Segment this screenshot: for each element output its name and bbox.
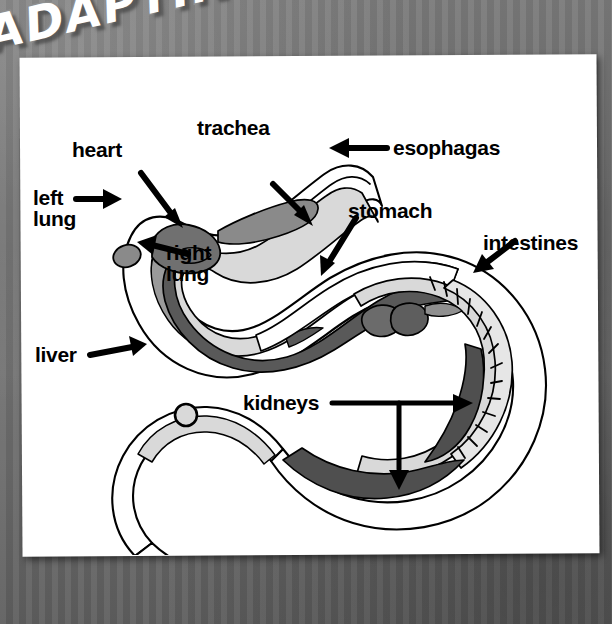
label-stomach: stomach — [348, 200, 432, 221]
arrowhead-left-lung — [103, 189, 122, 209]
tail-tip — [135, 543, 328, 555]
label-esophagas: esophagas — [393, 137, 500, 158]
body-circle-marker — [175, 404, 197, 426]
stomach-organ-lobe-b — [391, 303, 428, 335]
label-intestines: intestines — [483, 232, 578, 253]
arrow-liver — [90, 347, 132, 355]
label-liver: liver — [35, 344, 77, 365]
label-trachea: trachea — [197, 117, 270, 138]
label-kidneys: kidneys — [243, 392, 319, 413]
label-heart: heart — [72, 139, 122, 160]
snake-anatomy-illustration — [21, 56, 598, 555]
label-left-lung: left lung — [33, 187, 76, 229]
arrowhead-esophagas — [329, 138, 349, 158]
arrow-heart — [141, 173, 173, 216]
arrowhead-liver — [129, 336, 147, 356]
label-right-lung: right lung — [166, 242, 211, 284]
anatomy-diagram: heart trachea esophagas left lung right … — [21, 56, 598, 555]
